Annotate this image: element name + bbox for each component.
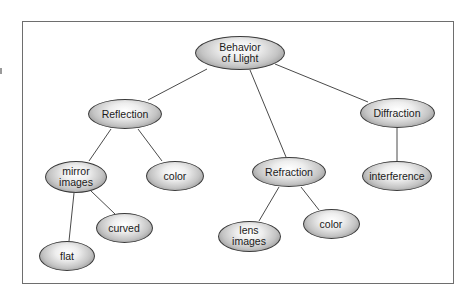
node-lens-images: lens images: [218, 221, 281, 252]
edge-reflection-mirror-images: [89, 129, 111, 161]
node-label: lens images: [232, 225, 266, 247]
node-label: Refraction: [265, 167, 313, 178]
node-flat: flat: [39, 241, 95, 271]
node-mirror-images: mirror images: [45, 161, 107, 193]
node-label: color: [320, 219, 343, 230]
node-label: color: [164, 171, 187, 182]
edge-reflection-color: [138, 129, 162, 161]
node-label: curved: [108, 223, 140, 234]
edge-mirror-images-flat: [69, 193, 74, 241]
edge-root-diffraction: [275, 64, 368, 102]
node-refraction: Refraction: [252, 157, 326, 187]
edge-mirror-images-curved: [91, 191, 115, 214]
node-label: Behavior of Llight: [219, 42, 260, 64]
edge-root-reflection: [148, 69, 207, 100]
node-interference: interference: [362, 161, 432, 191]
node-color-refraction: color: [303, 209, 360, 239]
node-behavior-of-light: Behavior of Llight: [195, 36, 285, 70]
node-reflection: Reflection: [88, 99, 162, 129]
node-color-reflection: color: [146, 161, 204, 191]
node-curved: curved: [96, 213, 153, 243]
node-label: Reflection: [102, 109, 149, 120]
node-label: flat: [60, 251, 74, 262]
node-diffraction: Diffraction: [360, 98, 435, 128]
edge-refraction-color: [301, 187, 319, 210]
node-label: Diffraction: [373, 108, 420, 119]
node-label: mirror images: [59, 166, 93, 188]
edge-root-refraction: [250, 70, 286, 157]
edge-refraction-lens-images: [259, 187, 279, 221]
node-label: interference: [369, 171, 424, 182]
